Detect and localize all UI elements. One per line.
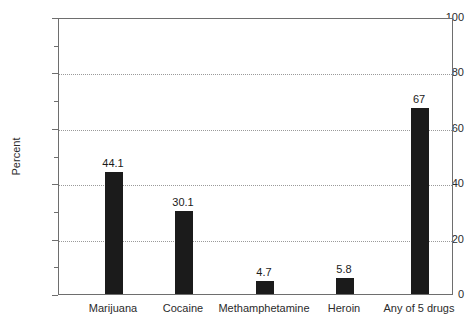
gridline <box>59 130 452 131</box>
bar-value-label: 4.7 <box>234 267 294 278</box>
bar-value-label: 44.1 <box>83 158 143 169</box>
y-axis-title: Percent <box>8 18 24 295</box>
bar <box>411 108 429 294</box>
gridline <box>59 74 452 75</box>
bar <box>105 172 123 294</box>
bar <box>256 281 274 294</box>
bar-value-label: 67 <box>389 94 449 105</box>
bar <box>336 278 354 294</box>
y-axis-tick <box>52 295 58 296</box>
x-axis-category-label: Any of 5 drugs <box>359 303 469 314</box>
bar-value-label: 5.8 <box>314 264 374 275</box>
bar <box>175 211 193 294</box>
bar-value-label: 30.1 <box>153 197 213 208</box>
